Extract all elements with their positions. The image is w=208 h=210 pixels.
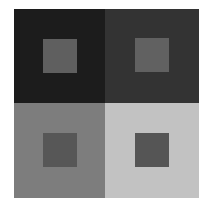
inner-square-bottom-right [135, 133, 169, 167]
contrast-illusion-canvas [0, 0, 208, 210]
inner-square-top-right [135, 38, 169, 72]
quadrant-grid [14, 9, 199, 198]
inner-square-top-left [43, 39, 77, 73]
quadrant-top-left [14, 9, 105, 103]
quadrant-top-right [105, 9, 199, 103]
quadrant-bottom-left [14, 103, 105, 198]
quadrant-bottom-right [105, 103, 199, 198]
inner-square-bottom-left [43, 133, 77, 167]
